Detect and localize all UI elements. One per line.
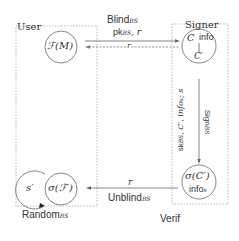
- fm-label: ℱ(M): [47, 41, 73, 51]
- unblind-r-label: r: [128, 178, 132, 187]
- sign-args: skBS, C′, infos; s: [177, 89, 185, 152]
- sigma-f-label: σ(ℱ′): [48, 183, 73, 193]
- blind-args: pkBS, r: [113, 28, 141, 37]
- sign-label: SignBS: [203, 110, 211, 135]
- signer-state-c-prime: C′: [194, 52, 203, 61]
- signer-label: Signer: [185, 20, 219, 30]
- unblind-label: UnblindBS: [108, 193, 150, 203]
- user-label: User: [17, 22, 41, 32]
- random-label: RandomBS: [22, 210, 68, 220]
- return-r-label: r: [127, 42, 131, 50]
- signature-sigma: σ(C′): [185, 171, 210, 181]
- s-prime-label: s′: [26, 183, 33, 193]
- user-box: [16, 26, 97, 206]
- signer-state-c: C: [187, 33, 195, 43]
- signature-info: infos: [189, 185, 207, 194]
- blind-label: BlindBS: [107, 15, 138, 25]
- signer-state-info: info: [199, 33, 214, 42]
- verif-label: Verif: [160, 214, 180, 224]
